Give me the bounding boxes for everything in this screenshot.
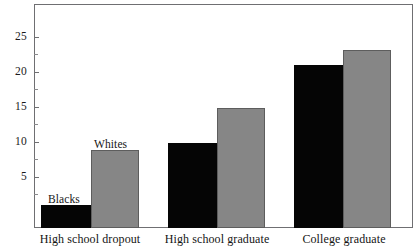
bar-whites-high-school-dropout [91, 150, 139, 228]
bars-layer [0, 0, 417, 252]
bar-chart: 25 20 15 10 5 Blacks Whites High school … [0, 0, 417, 252]
bar-blacks-high-school-graduate [168, 143, 217, 228]
category-label-high-school-dropout: High school dropout [40, 233, 141, 245]
series-annotation-whites: Whites [94, 139, 127, 151]
bar-whites-high-school-graduate [217, 108, 265, 228]
bar-whites-college-graduate [343, 50, 391, 228]
category-label-college-graduate: College graduate [302, 233, 385, 245]
category-label-high-school-graduate: High school graduate [165, 233, 270, 245]
bar-blacks-college-graduate [294, 65, 343, 228]
series-annotation-blacks: Blacks [48, 194, 80, 206]
bar-blacks-high-school-dropout [41, 205, 91, 228]
